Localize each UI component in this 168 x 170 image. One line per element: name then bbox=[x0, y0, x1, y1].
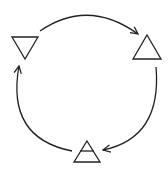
upright-triangle-icon bbox=[133, 35, 161, 59]
arrow-upright-to-barred bbox=[103, 67, 157, 150]
barred-triangle-node bbox=[74, 141, 100, 162]
cycle-diagram: inverted triangle upright triangle trian… bbox=[0, 0, 168, 170]
inverted-triangle-icon bbox=[12, 37, 38, 59]
inverted-triangle-node bbox=[12, 37, 38, 59]
upright-triangle-node bbox=[133, 35, 161, 59]
arrow-inverted-to-upright bbox=[40, 15, 138, 34]
arrow-barred-to-inverted bbox=[17, 66, 72, 151]
diagram-canvas bbox=[0, 0, 168, 170]
